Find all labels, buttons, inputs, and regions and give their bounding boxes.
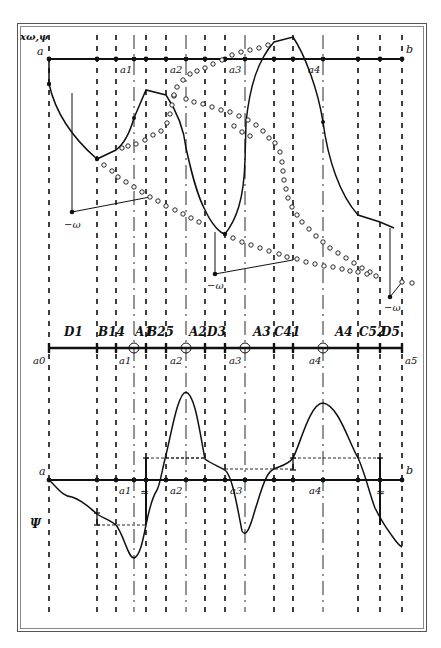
x-omega-curve (49, 37, 394, 234)
vertical-dashed-lines (49, 35, 402, 612)
middle-axis-label-a3: a3 (229, 355, 241, 366)
diagram-canvas: xω,ψ a b a1 a2 a3 a4 −ω −ω −ω (0, 0, 441, 648)
top-axis (47, 57, 405, 62)
interval-label-D3: D3 (206, 325, 226, 339)
y-axis-label: xω,ψ (19, 31, 49, 43)
psi-dotted-curves (102, 43, 414, 285)
omega-label-2: −ω (207, 280, 224, 291)
vertical-dashdot-lines (134, 35, 323, 612)
interval-label-B14: B14 (97, 325, 125, 339)
bottom-axis-label-a4: a4 (309, 485, 321, 496)
approx-symbol-left: ≈ (140, 486, 149, 499)
top-axis-label-a3: a3 (229, 64, 241, 75)
psi-label: Ψ (30, 517, 42, 531)
interval-label-D1: D1 (63, 325, 83, 339)
interval-label-A4: A4 (334, 325, 353, 339)
bottom-axis-label-a2: a2 (170, 485, 182, 496)
middle-axis-label-a0: a0 (33, 355, 46, 366)
middle-axis-label-a4: a4 (309, 355, 321, 366)
interval-label-B25: B25 (146, 325, 174, 339)
top-axis-label-a2: a2 (170, 64, 182, 75)
omega-segments (72, 93, 402, 297)
bottom-axis-end-label: b (406, 464, 413, 477)
omega-label-1: −ω (64, 219, 81, 230)
middle-axis-label-a1: a1 (119, 355, 131, 366)
bottom-axis (47, 478, 405, 483)
top-axis-label-a1: a1 (120, 64, 132, 75)
bottom-axis-label-a1: a1 (119, 485, 131, 496)
middle-axis-label-a5: a5 (405, 355, 417, 366)
interval-label-D5: D5 (380, 325, 400, 339)
middle-axis (49, 343, 402, 353)
top-axis-end-label: b (406, 43, 413, 56)
interval-label-C41: C41 (274, 325, 300, 339)
interval-label-A3: A3 (252, 325, 271, 339)
omega-label-3: −ω (384, 302, 401, 313)
bottom-axis-label-a3: a3 (230, 485, 242, 496)
bottom-axis-start-label: a (39, 465, 46, 478)
top-axis-start-label: a (37, 45, 44, 58)
interval-label-A2: A2 (188, 325, 207, 339)
middle-axis-label-a2: a2 (170, 355, 182, 366)
